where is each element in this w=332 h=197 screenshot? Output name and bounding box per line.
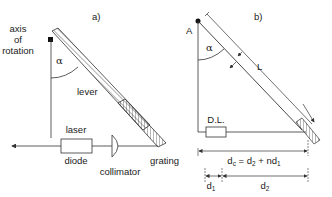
- length-label: L: [257, 61, 262, 72]
- grating-label: grating: [150, 155, 179, 166]
- laser-label: laser: [66, 124, 87, 135]
- diode-laser-box: [206, 127, 226, 137]
- d1-label: d1: [207, 180, 216, 192]
- axis-label-line1: axis: [10, 23, 27, 34]
- axis-label-line3: rotation: [2, 45, 34, 56]
- axis-pivot-icon: [48, 37, 53, 42]
- dc-equation: dc = d2 + nd1: [227, 155, 281, 167]
- panel-b-label: b): [254, 11, 262, 22]
- diode-laser-label: D.L.: [207, 114, 224, 125]
- angle-arc: [51, 67, 78, 78]
- lever-label: lever: [77, 86, 98, 97]
- angle-alpha-a: α: [56, 55, 63, 66]
- axis-label-line2: of: [14, 34, 22, 45]
- angle-alpha-b: α: [206, 42, 213, 53]
- panel-a-label: a): [92, 11, 100, 22]
- collimator-label: collimator: [100, 166, 141, 177]
- perpendicular-arrow-1: [230, 62, 236, 68]
- pivot-a-label: A: [186, 25, 193, 36]
- panel-a: a) axis of rotation α lever laser diode …: [2, 11, 179, 177]
- perpendicular-arrow-2: [238, 52, 242, 56]
- d2-label: d2: [261, 180, 270, 192]
- grating-element: [118, 99, 166, 147]
- panel-b: b) A L α D.L. dc = d2 + nd1: [186, 11, 320, 192]
- laser-diode-box: [61, 139, 92, 153]
- diagram-canvas: a) axis of rotation α lever laser diode …: [0, 0, 332, 197]
- length-end-arrow: [303, 104, 314, 122]
- collimator-lens-icon: [112, 135, 118, 157]
- diode-label: diode: [64, 155, 87, 166]
